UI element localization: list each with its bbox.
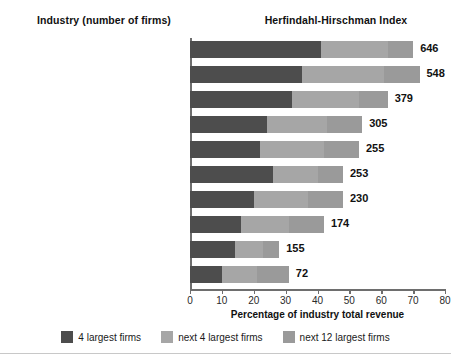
bar-segment [241, 216, 289, 233]
x-axis-label: Percentage of industry total revenue [190, 309, 445, 320]
bar-segment [190, 141, 260, 158]
x-axis-tick [318, 289, 319, 294]
bar-segment [190, 116, 267, 133]
bar-value-label: 72 [296, 267, 308, 279]
chart-row: Men's and boys' clothing (929)72 [190, 263, 445, 288]
legend-swatch [61, 331, 73, 343]
stacked-bar [190, 91, 388, 108]
stacked-bar [190, 41, 413, 58]
bar-segment [190, 66, 302, 83]
stacked-bar [190, 241, 279, 258]
hhi-column-header: Herfindahl-Hirschman Index [228, 14, 444, 26]
chart-row: Book printing (558)379 [190, 88, 445, 113]
bar-value-label: 255 [366, 142, 384, 154]
bar-segment [267, 116, 328, 133]
bar-segment [190, 91, 292, 108]
bar-value-label: 230 [350, 192, 368, 204]
chart-row: Audio and video equipment (478)646 [190, 38, 445, 63]
stacked-bar [190, 266, 289, 283]
concentration-ratio-chart: Industry (number of firms) Herfindahl-Hi… [0, 0, 451, 360]
bar-segment [254, 191, 308, 208]
bar-segment [359, 91, 388, 108]
bottom-divider [0, 353, 451, 354]
x-axis-tick [254, 289, 255, 294]
legend-swatch [161, 331, 173, 343]
bar-segment [308, 191, 343, 208]
bar-value-label: 305 [369, 117, 387, 129]
x-axis-tick [190, 289, 191, 294]
plot-area: Audio and video equipment (478)646Cheese… [190, 38, 445, 288]
bar-segment [190, 216, 241, 233]
stacked-bar [190, 141, 359, 158]
x-axis-tick-label: 40 [305, 295, 331, 306]
bar-value-label: 548 [427, 67, 445, 79]
industry-column-header: Industry (number of firms) [20, 14, 188, 26]
x-axis-tick-label: 10 [209, 295, 235, 306]
x-axis-tick-label: 30 [273, 295, 299, 306]
bar-segment [388, 41, 414, 58]
bar-segment [263, 241, 279, 258]
chart-row: Sporting goods (1,808)253 [190, 163, 445, 188]
legend-item: next 4 largest firms [161, 331, 262, 343]
chart-row: Furniture (6,314)155 [190, 238, 445, 263]
legend-label: next 4 largest firms [178, 332, 262, 343]
bar-segment [289, 216, 324, 233]
stacked-bar [190, 116, 362, 133]
stacked-bar [190, 166, 343, 183]
bar-value-label: 155 [286, 242, 304, 254]
bar-segment [321, 41, 388, 58]
stacked-bar [190, 216, 324, 233]
bar-segment [235, 241, 264, 258]
bar-segment [292, 91, 359, 108]
bar-value-label: 379 [395, 92, 413, 104]
chart-legend: 4 largest firmsnext 4 largest firmsnext … [0, 331, 451, 343]
legend-item: 4 largest firms [61, 331, 141, 343]
bar-segment [222, 266, 257, 283]
bar-value-label: 174 [331, 217, 349, 229]
x-axis-tick [286, 289, 287, 294]
chart-row: Canned foods (537)255 [190, 138, 445, 163]
x-axis-tick [222, 289, 223, 294]
x-axis-tick-label: 50 [336, 295, 362, 306]
bar-segment [327, 116, 362, 133]
chart-row: Jewelry (2,538)230 [190, 188, 445, 213]
bar-value-label: 253 [350, 167, 368, 179]
x-axis-tick [349, 289, 350, 294]
bar-segment [273, 166, 318, 183]
x-axis-tick-label: 0 [177, 295, 203, 306]
x-axis-tick [445, 289, 446, 294]
x-axis-tick-label: 80 [432, 295, 451, 306]
stacked-bar [190, 191, 343, 208]
bar-segment [190, 41, 321, 58]
bar-segment [190, 266, 222, 283]
chart-row: Cheese (341)548 [190, 63, 445, 88]
x-axis-tick-label: 60 [368, 295, 394, 306]
bar-segment [190, 166, 273, 183]
x-axis-tick-label: 70 [400, 295, 426, 306]
x-axis-tick [413, 289, 414, 294]
bar-segment [384, 66, 419, 83]
stacked-bar [190, 66, 420, 83]
bar-segment [260, 141, 324, 158]
bar-segment [324, 141, 359, 158]
x-axis-tick-label: 20 [241, 295, 267, 306]
bar-segment [318, 166, 344, 183]
bar-segment [257, 266, 289, 283]
legend-item: next 12 largest firms [283, 331, 390, 343]
bar-segment [190, 241, 235, 258]
legend-label: 4 largest firms [78, 332, 141, 343]
bar-segment [302, 66, 385, 83]
chart-row: Women's and girls' clothing (1,103)174 [190, 213, 445, 238]
chart-row: Frozen food (499)305 [190, 113, 445, 138]
bar-segment [190, 191, 254, 208]
bar-value-label: 646 [420, 42, 438, 54]
legend-swatch [283, 331, 295, 343]
x-axis-tick [381, 289, 382, 294]
legend-label: next 12 largest firms [300, 332, 390, 343]
